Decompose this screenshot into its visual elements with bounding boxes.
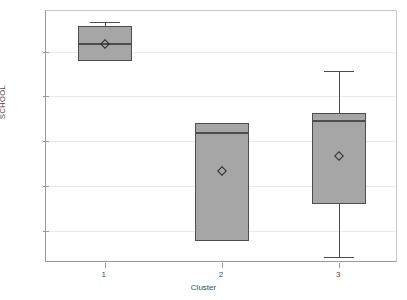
median-line	[312, 120, 366, 122]
gridline	[46, 96, 396, 97]
box-plot-chart: SCHOOL 910111213 123 Cluster	[0, 0, 407, 300]
y-axis-tick	[43, 141, 49, 142]
upper-whisker-line	[339, 71, 340, 113]
x-axis-label: 3	[336, 270, 340, 279]
y-axis-tick	[43, 96, 49, 97]
median-line	[195, 132, 249, 134]
y-axis-title: SCHOOL	[0, 85, 7, 119]
x-axis-tick	[222, 263, 223, 268]
x-axis-label: 2	[219, 270, 223, 279]
x-axis-title: Cluster	[0, 283, 407, 292]
y-axis-tick	[43, 186, 49, 187]
lower-whisker-cap	[324, 257, 354, 258]
box-rect	[195, 123, 249, 241]
x-axis-tick	[105, 263, 106, 268]
upper-whisker-cap	[324, 71, 354, 72]
y-axis-tick	[43, 52, 49, 53]
y-axis-tick	[43, 231, 49, 232]
plot-area	[45, 10, 397, 262]
x-axis-label: 1	[101, 270, 105, 279]
lower-whisker-line	[339, 204, 340, 257]
x-axis-tick	[339, 263, 340, 268]
upper-whisker-cap	[90, 22, 120, 23]
